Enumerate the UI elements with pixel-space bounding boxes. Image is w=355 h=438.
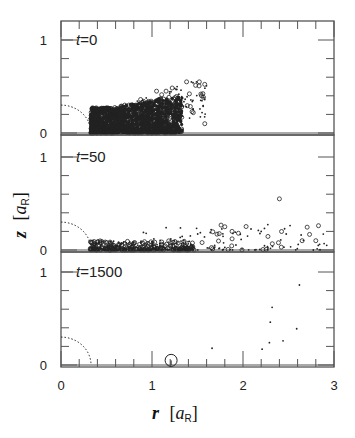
y-tick-label: 1 (40, 150, 47, 165)
x-tick-label: 0 (57, 378, 64, 393)
panels: 01t=001t=5001t=1500 (40, 21, 334, 373)
x-tick-label: 3 (330, 378, 337, 393)
planet-boundary-arc (61, 222, 91, 250)
scatter-points (89, 80, 207, 135)
y-tick-label: 0 (40, 243, 47, 258)
panel-1500: 01t=1500 (40, 252, 334, 373)
x-tick-label: 1 (148, 378, 155, 393)
panel-label: t=0 (76, 31, 97, 48)
planet-boundary-arc (61, 105, 91, 133)
x-axis-label: r [aR] (152, 403, 198, 424)
y-tick-label: 0 (40, 126, 47, 141)
scatter-points (88, 197, 327, 252)
planet-boundary-arc (61, 337, 91, 365)
y-tick-label: 1 (40, 33, 47, 48)
panel-0: 01t=0 (40, 21, 334, 141)
x-tick-labels: 0123 (57, 378, 337, 393)
panel-label: t=1500 (76, 263, 122, 280)
panel-label: t=50 (76, 148, 106, 165)
scatter-points (165, 284, 300, 366)
y-axis-label: z [aR] (10, 192, 31, 239)
y-tick-label: 1 (40, 265, 47, 280)
figure: 01t=001t=5001t=1500 0123 r [aR] z [aR] (0, 0, 355, 438)
x-tick-label: 2 (239, 378, 246, 393)
panel-50: 01t=50 (40, 135, 334, 258)
y-tick-label: 0 (40, 358, 47, 373)
